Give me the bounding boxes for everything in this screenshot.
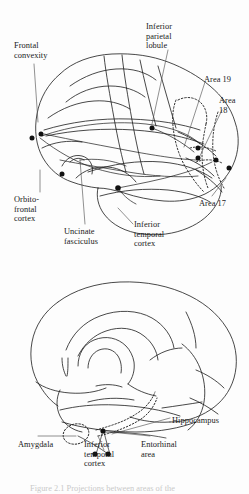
- label-uncinate-fasciculus: Uncinate fasciculus: [64, 227, 126, 246]
- superior-frontal-sulcus: [70, 69, 156, 86]
- label-inferior-temporal-cortex-medial: Inferior temporal cortex: [84, 440, 138, 469]
- marker-area-19b: [196, 156, 201, 161]
- label-frontal-convexity: Frontal convexity: [14, 41, 74, 60]
- parahippocampal-upper: [96, 385, 122, 387]
- orbital-margin: [76, 167, 136, 182]
- leader-area-18: [198, 110, 222, 160]
- leader-inferior-parietal: [152, 50, 168, 124]
- medial-outline-superior: [58, 282, 236, 422]
- label-amygdala: Amygdala: [18, 440, 78, 450]
- leader-inferior-temporal: [118, 208, 133, 224]
- ventral-surface-line: [60, 405, 180, 416]
- figure-caption: Figure 2.1 Projections between areas of …: [30, 484, 230, 494]
- connection-temporal-to-occipital: [118, 162, 212, 188]
- frontal-medial-sulcus-a: [62, 358, 66, 376]
- marker-orbitofrontal: [60, 172, 65, 177]
- central-sulcus: [104, 56, 126, 172]
- label-area-19: Area 19: [204, 75, 249, 85]
- connection-frontal-to-temporal: [40, 138, 160, 177]
- callosum-splenium-tail: [128, 384, 156, 396]
- cingulate-gyrus-inner: [78, 328, 158, 360]
- marker-entorhinal-area: [100, 428, 105, 433]
- connection-entorhinal-lateral: [104, 432, 166, 438]
- connection-parietal-to-occipital: [152, 128, 194, 152]
- cortex-outline-frontal: [36, 74, 98, 188]
- parietal-sulcus-a: [158, 66, 176, 128]
- corpus-callosum-outer: [78, 338, 134, 384]
- marker-area-18: [214, 158, 219, 163]
- figure-page: Frontal convexity Inferior parietal lobu…: [0, 0, 249, 494]
- frontal-medial-sulcus-b: [67, 358, 68, 376]
- label-entorhinal-area: Entorhinal area: [141, 440, 201, 459]
- medial-outline-frontal: [31, 302, 58, 386]
- middle-frontal-sulcus: [66, 86, 145, 102]
- label-orbito-frontal-cortex: Orbito- frontal cortex: [14, 195, 66, 224]
- sylvian-fissure-upper: [44, 119, 200, 130]
- marker-inferior-parietal: [150, 126, 155, 131]
- marker-frontal-convexity-2: [39, 132, 44, 137]
- postcentral-sulcus: [122, 55, 144, 174]
- leader-area-19: [184, 82, 205, 147]
- label-hippocampus: Hippocampus: [172, 416, 248, 426]
- label-inferior-parietal-lobule: Inferior parietal lobule: [146, 22, 204, 51]
- inferior-frontal-sulcus: [48, 101, 130, 118]
- leader-frontal-convexity: [34, 64, 38, 122]
- cingulate-gyrus-outer: [66, 311, 174, 350]
- site-markers: [30, 126, 232, 191]
- parieto-occipital-sulcus: [150, 348, 182, 360]
- marker-area-17: [227, 166, 232, 171]
- marker-inferior-temporal: [115, 185, 121, 191]
- corpus-callosum-inner: [88, 349, 121, 373]
- label-area-17: Area 17: [199, 199, 247, 209]
- medial-sulcus-right: [186, 312, 196, 348]
- marker-frontal-convexity-1: [30, 136, 35, 141]
- occipital-sulcus-a: [196, 170, 222, 192]
- leader-uncinate: [80, 160, 85, 224]
- label-area-18: Area 18: [219, 96, 249, 115]
- marker-area-19: [196, 146, 201, 151]
- label-inferior-temporal-cortex: Inferior temporal cortex: [134, 220, 190, 249]
- occipital-fold-a: [196, 370, 224, 388]
- area-18-boundary: [202, 124, 208, 188]
- ventral-occipital-line: [162, 402, 202, 408]
- parahippocampal-lower: [88, 398, 134, 402]
- connection-frontal-to-occipital: [42, 123, 200, 144]
- ventral-surface-frontal: [36, 382, 106, 393]
- orbital-sulcus: [42, 141, 82, 148]
